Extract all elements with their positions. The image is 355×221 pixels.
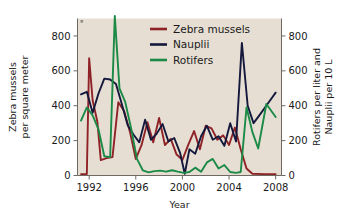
species-abundance-line-chart: 1992199620002004200802004006008000200400… [0, 0, 355, 221]
y-axis-title-right: Rotifers per liter andNauplii per 10 L [311, 48, 334, 146]
chart-figure: 1992199620002004200802004006008000200400… [0, 0, 355, 221]
y-tick-label-right: 200 [289, 135, 308, 146]
legend-label-zebra-mussels: Zebra mussels [173, 23, 250, 35]
legend-label-nauplii: Nauplii [173, 38, 209, 50]
x-tick-label: 2000 [170, 182, 195, 193]
x-tick-label: 1996 [123, 182, 148, 193]
y-tick-label-right: 600 [289, 65, 308, 76]
x-tick-label: 2008 [263, 182, 288, 193]
y-tick-label-left: 200 [51, 135, 70, 146]
y-axis-title-right-line: Rotifers per liter and [311, 48, 322, 146]
legend-label-rotifers: Rotifers [173, 54, 213, 66]
y-tick-label-left: 800 [51, 31, 70, 42]
y-axis-title-right-line: Nauplii per 10 L [323, 59, 334, 135]
y-tick-label-right: 800 [289, 31, 308, 42]
corner-mark [81, 20, 84, 23]
y-tick-label-left: 600 [51, 65, 70, 76]
x-tick-label: 2004 [216, 182, 241, 193]
x-tick-label: 1992 [76, 182, 101, 193]
y-axis-title-left: Zebra musselsper square meter [7, 56, 30, 139]
x-axis-title: Year [168, 199, 189, 210]
y-tick-label-left: 400 [51, 100, 70, 111]
y-tick-label-left: 0 [64, 170, 70, 181]
y-tick-label-right: 400 [289, 100, 308, 111]
y-tick-label-right: 0 [289, 170, 295, 181]
y-axis-title-left-line: Zebra mussels [7, 62, 18, 132]
y-axis-title-left-line: per square meter [19, 56, 30, 139]
